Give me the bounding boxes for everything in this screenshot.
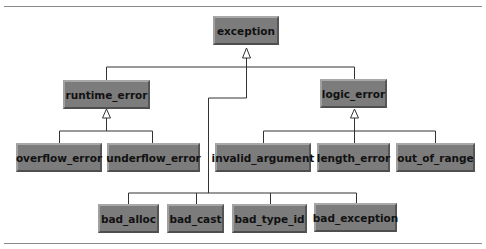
node-exception: exception — [213, 16, 279, 45]
node-bad-exception: bad_exception — [314, 203, 397, 232]
node-logic-error: logic_error — [320, 79, 387, 108]
node-bad-cast: bad_cast — [167, 204, 224, 233]
node-runtime-error: runtime_error — [63, 80, 150, 109]
inherit-arrow-icon — [351, 109, 359, 118]
node-overflow-error: overflow_error — [16, 143, 102, 172]
node-invalid-argument: invalid_argument — [215, 143, 311, 172]
inherit-arrow-icon — [243, 48, 251, 58]
node-bad-type-id: bad_type_id — [232, 204, 307, 233]
node-out-of-range: out_of_range — [396, 143, 475, 172]
node-bad-alloc: bad_alloc — [98, 204, 159, 233]
node-underflow-error: underflow_error — [107, 143, 200, 172]
inherit-arrow-icon — [103, 109, 111, 118]
node-length-error: length_error — [317, 143, 390, 172]
